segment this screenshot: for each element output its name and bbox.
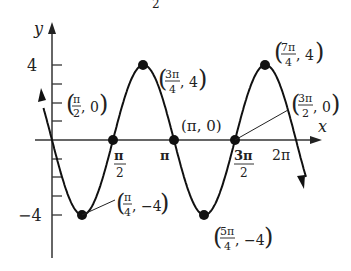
sine-graph: y x 4 −4 2 π 2 π 3π 2 2π ( π 2 , 0 ) ( 3…	[0, 0, 351, 271]
x-axis-arrow-icon	[310, 136, 322, 144]
svg-text:): )	[198, 65, 207, 93]
svg-text:π: π	[73, 93, 80, 106]
svg-text:3π: 3π	[234, 148, 253, 163]
svg-text:, 0: , 0	[81, 99, 99, 115]
svg-text:2: 2	[240, 166, 248, 180]
svg-text:7π: 7π	[281, 41, 295, 54]
svg-text:π: π	[114, 148, 124, 163]
x-axis-label: x	[318, 117, 327, 136]
x-tick-2pi: 2π	[272, 147, 290, 163]
annotation-3pi2-0: ( 3π 2 , 0 )	[291, 90, 340, 120]
svg-text:, 4: , 4	[180, 74, 198, 90]
svg-text:): )	[160, 189, 169, 217]
svg-text:): )	[99, 90, 108, 118]
y-tick-label-4: 4	[27, 56, 37, 75]
svg-text:π: π	[124, 191, 131, 204]
svg-text:4: 4	[169, 83, 176, 96]
svg-text:, 0: , 0	[313, 99, 331, 115]
annotation-7pi4-4: ( 7π 4 , 4 )	[274, 38, 324, 69]
svg-text:3π: 3π	[298, 92, 312, 105]
annotation-pi-0: (π, 0)	[181, 117, 222, 135]
svg-text:2: 2	[302, 107, 309, 120]
svg-text:5π: 5π	[220, 225, 234, 238]
svg-text:4: 4	[124, 206, 131, 219]
svg-text:, 4: , 4	[296, 47, 314, 63]
annotation-5pi4-neg4: ( 5π 4 , −4 )	[213, 223, 273, 253]
annotation-3pi4-4: ( 3π 4 , 4 )	[158, 65, 207, 96]
svg-text:): )	[331, 90, 340, 118]
top-fragment: 2	[152, 0, 160, 11]
x-tick-pi-over-2: π 2	[114, 148, 126, 180]
leader-pi4	[82, 200, 115, 215]
svg-text:, −4: , −4	[235, 232, 265, 248]
x-tick-3pi-over-2: 3π 2	[234, 148, 254, 180]
annotation-pi2-0: ( π 2 , 0 )	[66, 90, 108, 120]
y-axis-arrow-icon	[48, 22, 56, 34]
y-tick-label-neg4: −4	[18, 206, 42, 225]
svg-text:4: 4	[285, 56, 292, 69]
curve-left-arrow-icon	[38, 88, 46, 102]
svg-text:2: 2	[73, 107, 80, 120]
x-tick-pi: π	[160, 148, 170, 163]
svg-text:): )	[315, 38, 324, 66]
curve-right-arrow-icon	[297, 175, 305, 189]
svg-text:2: 2	[116, 166, 124, 180]
y-axis-label: y	[33, 19, 44, 38]
annotation-pi4-neg4: ( π 4 , −4 )	[116, 189, 169, 219]
svg-text:): )	[264, 223, 273, 251]
leader-3pi2	[235, 110, 288, 140]
svg-text:, −4: , −4	[132, 198, 162, 214]
svg-text:4: 4	[224, 240, 231, 253]
svg-text:3π: 3π	[165, 68, 179, 81]
